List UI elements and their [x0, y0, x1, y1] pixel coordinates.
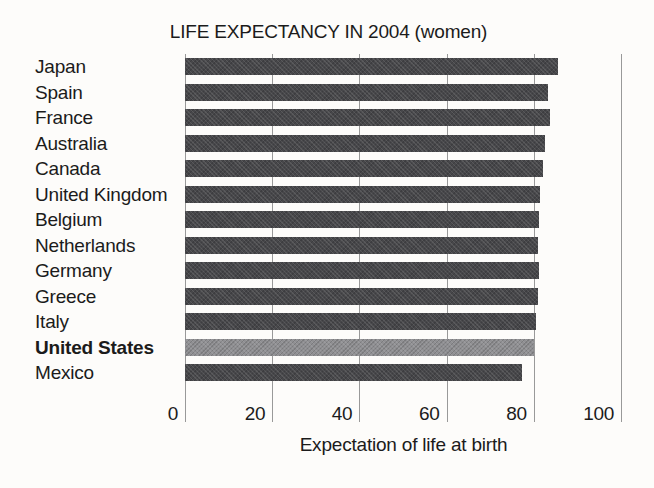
- bar-canada: [185, 160, 543, 177]
- bar-united-states: [185, 339, 534, 356]
- bar-spain: [185, 84, 548, 101]
- x-tick-label-60: 60: [380, 403, 440, 424]
- life-expectancy-bar-chart: LIFE EXPECTANCY IN 2004 (women) JapanSpa…: [0, 0, 654, 488]
- x-tick-label-80: 80: [467, 403, 527, 424]
- category-label-greece: Greece: [35, 286, 96, 307]
- x-axis-title: Expectation of life at birth: [185, 434, 622, 456]
- bar-germany: [185, 262, 539, 279]
- bar-greece: [185, 288, 538, 305]
- category-label-canada: Canada: [35, 158, 100, 179]
- category-label-australia: Australia: [35, 133, 107, 154]
- bar-france: [185, 109, 550, 126]
- x-tick-label-100: 100: [554, 403, 614, 424]
- bar-belgium: [185, 211, 539, 228]
- category-label-belgium: Belgium: [35, 209, 102, 230]
- x-tick-label-20: 20: [205, 403, 265, 424]
- category-label-spain: Spain: [35, 82, 83, 103]
- x-tick-label-40: 40: [292, 403, 352, 424]
- category-label-united-states: United States: [35, 337, 154, 358]
- x-tick-label-0: 0: [118, 403, 178, 424]
- category-label-germany: Germany: [35, 260, 112, 281]
- bar-australia: [185, 135, 545, 152]
- bar-netherlands: [185, 237, 538, 254]
- bar-italy: [185, 313, 536, 330]
- category-label-italy: Italy: [35, 311, 69, 332]
- category-label-netherlands: Netherlands: [35, 235, 135, 256]
- bar-united-kingdom: [185, 186, 540, 203]
- gridline-100: [621, 54, 622, 422]
- category-axis-labels: JapanSpainFranceAustraliaCanadaUnited Ki…: [35, 0, 183, 430]
- plot-area: [185, 54, 622, 422]
- bar-japan: [185, 58, 558, 75]
- category-label-mexico: Mexico: [35, 362, 94, 383]
- category-label-france: France: [35, 107, 93, 128]
- category-label-united-kingdom: United Kingdom: [35, 184, 167, 205]
- bar-mexico: [185, 364, 522, 381]
- category-label-japan: Japan: [35, 56, 86, 77]
